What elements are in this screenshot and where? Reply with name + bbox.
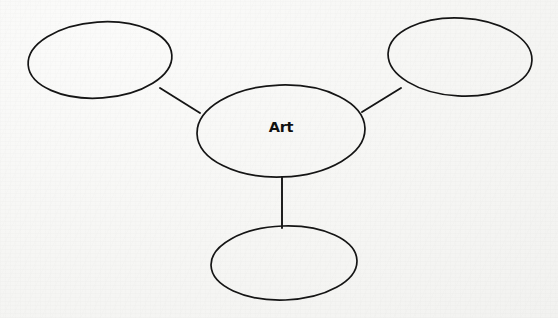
node-bottom[interactable] [210,223,358,302]
node-center-label: Art [269,119,294,135]
connector-center-to-top-left [160,88,200,113]
diagram-canvas: Art [0,0,558,318]
node-top-left[interactable] [26,17,175,103]
node-top-right[interactable] [386,14,534,99]
connector-center-to-top-right [362,88,401,112]
concept-map-diagram: Art [0,0,558,318]
